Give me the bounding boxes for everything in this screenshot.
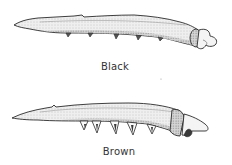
label-black: Black xyxy=(85,61,145,72)
black-larva xyxy=(14,15,217,49)
speck xyxy=(160,78,161,79)
larvae-drawing xyxy=(0,0,232,165)
brown-larva xyxy=(12,103,208,137)
black-larva-head xyxy=(190,29,217,49)
label-brown: Brown xyxy=(89,146,149,157)
larvae-illustration: Black Brown xyxy=(0,0,232,165)
brown-larva-head xyxy=(182,114,208,137)
black-larva-body xyxy=(14,15,198,46)
